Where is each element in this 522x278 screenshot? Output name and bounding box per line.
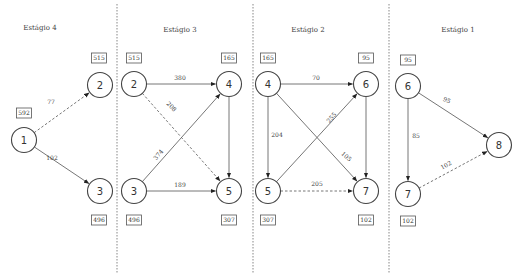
edge-n7b-n8: 102 (419, 151, 487, 188)
node-6: 695 (396, 55, 421, 99)
edge-cost-label: 102 (439, 159, 453, 171)
node-label: 5 (265, 186, 271, 197)
edge-n3b-n4a: 374 (142, 94, 220, 182)
node-8: 8 (487, 133, 512, 158)
stage-title-stage3: Estágio 3 (163, 26, 196, 34)
node-value: 95 (362, 54, 370, 61)
stage-title-stage2: Estágio 2 (291, 26, 324, 34)
dashed-arrow (419, 151, 487, 188)
solid-arrow (276, 93, 357, 181)
edge-cost-label: 208 (165, 100, 178, 113)
node-3: 3496 (122, 179, 147, 226)
edge-cost-label: 77 (47, 98, 55, 105)
node-label: 5 (226, 186, 232, 197)
node-7: 7102 (396, 182, 421, 227)
node-label: 6 (363, 79, 369, 90)
edge-n2b-n4a: 380 (147, 74, 216, 84)
solid-arrow (142, 94, 220, 182)
edge-n5b-n6a: 255 (276, 94, 357, 182)
node-label: 3 (97, 186, 103, 197)
edge-cost-label: 85 (412, 132, 420, 139)
node-value: 515 (128, 54, 140, 61)
node-5: 5307 (256, 179, 281, 226)
node-label: 6 (405, 81, 411, 92)
node-1: 1592 (12, 108, 37, 153)
edge-cost-label: 189 (174, 181, 186, 188)
edge-n6b-n7b: 85 (408, 99, 420, 181)
node-label: 2 (131, 79, 137, 90)
edge-cost-label: 205 (311, 180, 323, 187)
edge-n4b-n7a: 105 (276, 93, 357, 181)
node-label: 4 (265, 79, 271, 90)
dashed-arrow (34, 93, 89, 133)
edge-cost-label: 204 (271, 131, 283, 138)
solid-arrow (276, 94, 357, 182)
node-value: 307 (262, 216, 274, 223)
stage-titles: Estágio 4Estágio 3Estágio 2Estágio 1 (23, 24, 474, 34)
node-3: 3496 (88, 179, 113, 226)
node-value: 496 (93, 216, 105, 223)
node-4: 4165 (217, 53, 242, 97)
node-value: 165 (262, 54, 274, 61)
node-5: 5307 (217, 179, 242, 226)
node-2: 2515 (88, 53, 113, 98)
stage-title-stage4: Estágio 4 (23, 24, 57, 32)
node-label: 4 (226, 79, 232, 90)
edge-cost-label: 255 (325, 111, 338, 124)
edge-cost-label: 105 (340, 150, 353, 163)
node-2: 2515 (122, 53, 147, 97)
node-label: 7 (405, 189, 411, 200)
node-value: 592 (18, 109, 30, 116)
edge-n1-n3a: 102 (34, 147, 88, 184)
edge-n1-n2a: 77 (34, 93, 89, 133)
node-label: 8 (496, 140, 502, 151)
node-value: 102 (360, 216, 372, 223)
node-6: 695 (354, 53, 379, 97)
stage-dividers (117, 4, 389, 274)
edge-cost-label: 95 (442, 95, 452, 105)
edge-cost-label: 102 (46, 154, 58, 161)
edge-n4b-n5b: 204 (268, 97, 283, 178)
stage-title-stage1: Estágio 1 (441, 26, 474, 34)
node-value: 307 (223, 216, 235, 223)
node-value: 95 (404, 56, 412, 63)
node-label: 1 (21, 135, 27, 146)
node-label: 2 (97, 80, 103, 91)
solid-arrow (419, 93, 488, 138)
dashed-arrow (142, 93, 220, 181)
node-value: 496 (128, 216, 140, 223)
edge-n5b-n7a: 205 (281, 180, 353, 191)
edge-n3b-n5a: 189 (147, 181, 216, 191)
edge-n6b-n8: 95 (419, 93, 488, 138)
node-value: 102 (402, 217, 414, 224)
node-label: 7 (363, 186, 369, 197)
node-7: 7102 (354, 179, 379, 226)
dynamic-programming-network-diagram: Estágio 4Estágio 3Estágio 2Estágio 1 771… (0, 0, 522, 278)
node-label: 3 (131, 186, 137, 197)
edge-n4b-n6a: 70 (281, 74, 353, 84)
solid-arrow (34, 147, 88, 184)
node-value: 165 (223, 54, 235, 61)
edge-n2b-n5a: 208 (142, 93, 220, 181)
edge-cost-label: 70 (312, 74, 320, 81)
node-4: 4165 (256, 53, 281, 97)
nodes: 1592251534962515349641655307416553076957… (12, 53, 512, 226)
edge-cost-label: 380 (174, 74, 186, 81)
node-value: 515 (93, 54, 105, 61)
